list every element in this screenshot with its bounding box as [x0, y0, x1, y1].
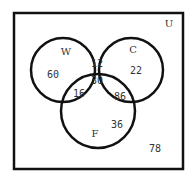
set-w-label: W	[61, 46, 72, 57]
set-f-label: F	[92, 128, 99, 139]
region-c-f: 86	[114, 91, 126, 102]
region-w-only: 60	[47, 69, 59, 80]
venn-diagram: U W C F 60 22 36 12 30 16 86 78	[0, 0, 192, 182]
region-w-f: 16	[73, 88, 85, 99]
region-f-only: 36	[111, 119, 123, 130]
region-c-only: 22	[130, 65, 142, 76]
region-w-c: 12	[91, 58, 103, 69]
universe-label: U	[165, 18, 173, 29]
set-c-label: C	[129, 44, 137, 55]
region-outside: 78	[149, 143, 161, 154]
region-w-c-f: 30	[91, 75, 103, 86]
